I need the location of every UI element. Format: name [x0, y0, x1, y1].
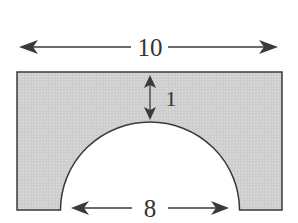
diameter-label: 8	[144, 195, 157, 222]
width-label: 10	[138, 34, 163, 61]
diagram: 10 1 8	[0, 0, 298, 223]
thickness-label: 1	[166, 86, 177, 111]
